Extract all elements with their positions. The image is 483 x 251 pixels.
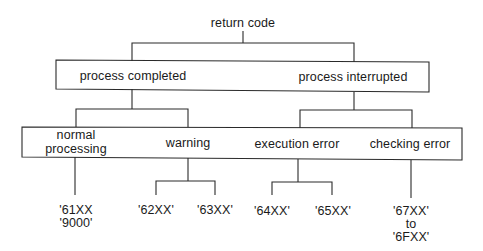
node-normal-processing: normal processing (45, 128, 106, 156)
codes-normal-processing: '61XX '9000' (59, 204, 92, 230)
root-node-label: return code (211, 16, 275, 30)
code-62xx: '62XX' (138, 204, 174, 217)
warning-bracket-line (156, 181, 215, 195)
code-9000: '9000' (59, 217, 92, 230)
code-6fxx: '6FXX' (393, 231, 430, 244)
code-65xx: '65XX' (315, 205, 351, 218)
node-process-completed: process completed (80, 69, 187, 83)
completed-bracket-line (76, 109, 188, 127)
code-63xx: '63XX' (197, 204, 233, 217)
node-execution-error: execution error (255, 137, 340, 151)
codes-checking-error: '67XX' to '6FXX' (393, 205, 430, 244)
node-process-interrupted: process interrupted (299, 70, 408, 84)
interrupted-bracket-line (300, 110, 412, 128)
code-64xx: '64XX' (254, 205, 290, 218)
node-warning: warning (166, 136, 210, 150)
node-checking-error: checking error (370, 137, 451, 151)
root-bracket-line (132, 43, 354, 62)
node-normal-processing-line1: normal (45, 128, 106, 142)
return-code-tree-diagram: return code process completed process in… (0, 0, 483, 251)
execution-error-bracket-line (272, 182, 332, 195)
node-normal-processing-line2: processing (45, 142, 106, 156)
